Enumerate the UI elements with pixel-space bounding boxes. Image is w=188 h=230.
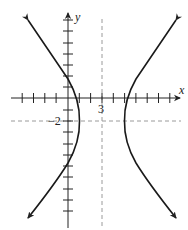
center-x-label: 3 (98, 102, 104, 116)
hyperbola-right-branch (124, 20, 176, 218)
y-axis-label: y (74, 10, 81, 24)
x-axis-label: x (178, 83, 185, 97)
center-y-label: −2 (48, 114, 61, 128)
hyperbola-diagram: x y 3 −2 (0, 0, 188, 230)
